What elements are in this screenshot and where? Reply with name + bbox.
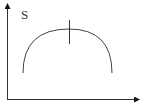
diagram-canvas: S: [0, 0, 145, 105]
parabola-curve: [23, 29, 112, 73]
y-axis-label: S: [21, 7, 28, 22]
